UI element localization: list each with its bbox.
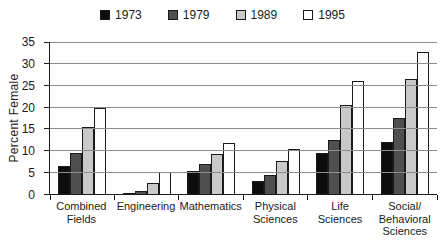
- bar: [123, 193, 135, 194]
- x-category-label: CombinedFields: [49, 200, 114, 238]
- legend-item: 1979: [168, 8, 210, 22]
- gridline: [50, 128, 437, 129]
- gridline: [50, 150, 437, 151]
- bar: [352, 81, 364, 194]
- y-tick-mark: [44, 128, 50, 129]
- x-category-label-line: Fields: [49, 213, 114, 226]
- y-axis: 05101520253035: [0, 42, 43, 195]
- bar: [316, 153, 328, 194]
- x-category-label-line: Engineering: [114, 200, 179, 213]
- bar: [405, 79, 417, 194]
- legend-label: 1973: [115, 8, 142, 22]
- y-tick-mark: [44, 172, 50, 173]
- legend-label: 1995: [318, 8, 345, 22]
- x-category-label: Social/BehavioralSciences: [372, 200, 437, 238]
- bar: [58, 166, 70, 194]
- chart-legend: 1973197919891995: [0, 8, 445, 22]
- x-axis-category-labels: CombinedFieldsEngineeringMathematicsPhys…: [49, 200, 437, 238]
- x-category-label: PhysicalSciences: [243, 200, 308, 238]
- y-tick-label: 0: [28, 188, 35, 202]
- legend-label: 1989: [251, 8, 278, 22]
- bar: [82, 127, 94, 194]
- x-category-label: Engineering: [114, 200, 179, 238]
- legend-label: 1979: [183, 8, 210, 22]
- bar: [276, 161, 288, 194]
- gridline: [50, 172, 437, 173]
- legend-item: 1989: [236, 8, 278, 22]
- x-category-label-line: Life Sciences: [308, 200, 373, 225]
- y-tick-mark: [44, 63, 50, 64]
- x-category-label: Mathematics: [178, 200, 243, 238]
- legend-item: 1973: [100, 8, 142, 22]
- plot-area: [49, 42, 437, 195]
- y-tick-mark: [44, 85, 50, 86]
- x-category-label-line: Sciences: [372, 225, 437, 238]
- bar-chart-figure: 1973197919891995 Percent Female 05101520…: [0, 0, 445, 245]
- y-tick-label: 20: [22, 101, 35, 115]
- legend-color-swatch: [236, 10, 246, 20]
- x-category-label-line: Social/: [372, 200, 437, 213]
- bar: [252, 181, 264, 194]
- y-tick-mark: [44, 150, 50, 151]
- gridline: [50, 85, 437, 86]
- bar: [211, 154, 223, 194]
- y-tick-label: 5: [28, 166, 35, 180]
- y-tick-label: 25: [22, 79, 35, 93]
- legend-color-swatch: [303, 10, 313, 20]
- x-category-label-line: Physical: [243, 200, 308, 213]
- y-tick-label: 30: [22, 57, 35, 71]
- bar: [159, 172, 171, 194]
- y-tick-label: 10: [22, 144, 35, 158]
- x-category-label-line: Combined: [49, 200, 114, 213]
- bar: [328, 140, 340, 194]
- x-category-label-line: Mathematics: [178, 200, 243, 213]
- x-category-label-line: Behavioral: [372, 213, 437, 226]
- y-tick-mark: [44, 107, 50, 108]
- gridline: [50, 63, 437, 64]
- legend-color-swatch: [100, 10, 110, 20]
- bar: [199, 164, 211, 194]
- y-tick-label: 15: [22, 122, 35, 136]
- x-category-label: Life Sciences: [308, 200, 373, 238]
- x-category-label-line: Sciences: [243, 213, 308, 226]
- legend-item: 1995: [303, 8, 345, 22]
- bar: [264, 175, 276, 194]
- bar: [187, 171, 199, 194]
- y-tick-mark: [44, 42, 50, 43]
- y-tick-label: 35: [22, 35, 35, 49]
- gridline: [50, 107, 437, 108]
- gridline: [50, 42, 437, 43]
- legend-color-swatch: [168, 10, 178, 20]
- bar: [147, 183, 159, 194]
- bar: [135, 191, 147, 194]
- bar: [70, 153, 82, 194]
